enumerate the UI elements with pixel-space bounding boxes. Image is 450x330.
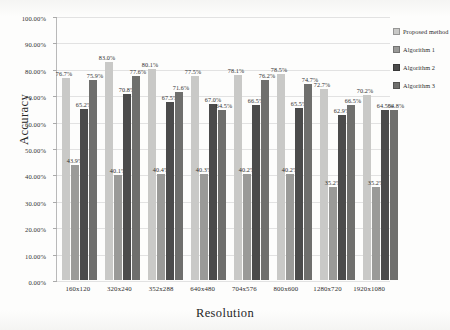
y-axis-tick-label: 70.00%	[25, 94, 46, 101]
x-axis-tick-label: 160x120	[57, 285, 99, 292]
bar[interactable]: 67.0%	[209, 104, 217, 280]
x-axis-tick-label: 704x576	[224, 285, 266, 292]
x-axis-tick-label: 1920x1080	[348, 285, 390, 292]
bar-value-label: 78.1%	[228, 67, 244, 74]
x-axis-tick-label: 320x240	[99, 285, 141, 292]
bar[interactable]: 78.1%	[234, 75, 242, 280]
y-axis-tick: 100.00%	[53, 17, 57, 18]
legend-swatch-icon	[393, 64, 400, 71]
bar[interactable]: 35.2%	[372, 187, 380, 280]
bar-group: 78.5%40.2%65.5%74.7%	[273, 17, 316, 280]
bar-group: 83.0%40.1%70.8%77.6%	[101, 17, 144, 280]
bar[interactable]: 78.5%	[277, 74, 285, 280]
bar[interactable]: 66.5%	[252, 105, 260, 280]
x-axis-tick-label: 800x600	[265, 285, 307, 292]
bar-group: 76.7%43.9%65.2%75.9%	[58, 17, 101, 280]
y-axis-tick: 60.00%	[53, 123, 57, 124]
y-axis-tick: 50.00%	[53, 149, 57, 150]
bar[interactable]: 65.2%	[80, 109, 88, 280]
bar[interactable]: 70.2%	[363, 95, 371, 280]
bar[interactable]: 66.5%	[347, 105, 355, 280]
legend-item[interactable]: Proposed method	[393, 22, 450, 40]
bar-groups: 76.7%43.9%65.2%75.9%83.0%40.1%70.8%77.6%…	[58, 17, 390, 280]
bar[interactable]: 67.5%	[166, 102, 174, 280]
bar-value-label: 70.2%	[357, 87, 373, 94]
bar-group: 77.5%40.3%67.0%64.5%	[187, 17, 230, 280]
bar[interactable]: 65.5%	[295, 108, 303, 280]
plot-area: 0.00%10.00%20.00%30.00%40.00%50.00%60.00…	[56, 17, 390, 282]
bar-group: 80.1%40.4%67.5%71.6%	[144, 17, 187, 280]
bar[interactable]: 76.7%	[62, 78, 70, 280]
y-axis-tick: 30.00%	[53, 202, 57, 203]
y-axis-tick: 90.00%	[53, 43, 57, 44]
y-axis-tick-label: 0.00%	[28, 279, 46, 286]
y-axis-tick-label: 10.00%	[25, 252, 46, 259]
legend-label: Algorithm 2	[403, 64, 435, 71]
bar-chart-figure: Accuracy 0.00%10.00%20.00%30.00%40.00%50…	[0, 0, 450, 330]
bar[interactable]: 77.6%	[132, 76, 140, 280]
bar-value-label: 78.5%	[271, 66, 287, 73]
x-axis-tick-label: 1280x720	[307, 285, 349, 292]
y-axis-tick: 40.00%	[53, 175, 57, 176]
y-axis-tick-label: 80.00%	[25, 67, 46, 74]
bar[interactable]: 62.9%	[338, 115, 346, 280]
legend-item[interactable]: Algorithm 1	[393, 40, 450, 58]
y-axis-tick-label: 60.00%	[25, 120, 46, 127]
bar-value-label: 76.7%	[56, 70, 72, 77]
bar[interactable]: 70.8%	[123, 94, 131, 280]
legend-label: Algorithm 1	[403, 46, 435, 53]
bar[interactable]: 71.6%	[175, 92, 183, 280]
y-axis-tick: 20.00%	[53, 228, 57, 229]
x-axis-tick-label: 640x480	[182, 285, 224, 292]
bar[interactable]: 40.4%	[157, 174, 165, 280]
legend-label: Proposed method	[403, 28, 448, 35]
bar[interactable]: 64.8%	[390, 110, 398, 280]
y-axis-tick: 10.00%	[53, 255, 57, 256]
bar[interactable]: 43.9%	[71, 165, 79, 280]
bar[interactable]: 35.2%	[329, 187, 337, 280]
bar-group: 78.1%40.2%66.5%76.2%	[230, 17, 273, 280]
bar-value-label: 77.5%	[185, 68, 201, 75]
legend-label: Algorithm 3	[403, 82, 435, 89]
y-axis-tick: 0.00%	[53, 281, 57, 282]
y-axis-tick-label: 40.00%	[25, 173, 46, 180]
y-axis-tick-label: 90.00%	[25, 41, 46, 48]
bar[interactable]: 76.2%	[261, 80, 269, 280]
y-axis-tick: 70.00%	[53, 96, 57, 97]
y-axis-tick-label: 100.00%	[22, 15, 46, 22]
legend-swatch-icon	[393, 46, 400, 53]
legend-item[interactable]: Algorithm 3	[393, 76, 450, 94]
y-axis-tick-label: 50.00%	[25, 147, 46, 154]
x-axis-tick-labels: 160x120320x240352x288640x480704x576800x6…	[57, 285, 390, 292]
x-axis-title: Resolution	[0, 306, 450, 321]
bar[interactable]: 40.2%	[243, 174, 251, 280]
x-axis-tick-label: 352x288	[140, 285, 182, 292]
bar[interactable]: 40.2%	[286, 174, 294, 280]
y-axis-tick-label: 30.00%	[25, 199, 46, 206]
y-axis-tick-label: 20.00%	[25, 226, 46, 233]
legend-swatch-icon	[393, 28, 400, 35]
bar-value-label: 64.8%	[388, 102, 404, 109]
bar[interactable]: 75.9%	[89, 80, 97, 280]
gridline	[57, 281, 390, 282]
bar[interactable]: 40.1%	[114, 175, 122, 280]
bar[interactable]: 74.7%	[304, 84, 312, 280]
legend-item[interactable]: Algorithm 2	[393, 58, 450, 76]
bar[interactable]: 64.5%	[218, 110, 226, 280]
bar-value-label: 83.0%	[99, 54, 115, 61]
bar[interactable]: 40.3%	[200, 174, 208, 280]
bar[interactable]: 80.1%	[148, 69, 156, 280]
bar-value-label: 80.1%	[142, 61, 158, 68]
legend-swatch-icon	[393, 82, 400, 89]
bar-group: 72.7%35.2%62.9%66.5%	[316, 17, 359, 280]
bar[interactable]: 64.5%	[381, 110, 389, 280]
bar[interactable]: 77.5%	[191, 76, 199, 280]
chart-legend: Proposed methodAlgorithm 1Algorithm 2Alg…	[393, 22, 450, 94]
bar-value-label: 72.7%	[314, 81, 330, 88]
